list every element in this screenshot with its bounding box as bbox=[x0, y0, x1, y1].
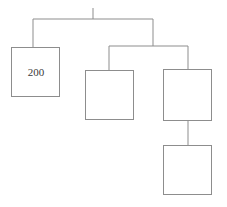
left-node[interactable]: 200 bbox=[12, 48, 60, 97]
tree-diagram: 200 bbox=[0, 0, 227, 207]
bottom-node[interactable] bbox=[164, 146, 212, 195]
node-group: 200 bbox=[12, 48, 212, 195]
tree-diagram-canvas: 200 bbox=[0, 0, 227, 207]
middle-node[interactable] bbox=[86, 71, 134, 120]
right-node-box[interactable] bbox=[164, 70, 212, 121]
bottom-node-box[interactable] bbox=[164, 146, 212, 195]
right-node[interactable] bbox=[164, 70, 212, 121]
middle-node-box[interactable] bbox=[86, 71, 134, 120]
left-node-label: 200 bbox=[28, 66, 45, 78]
